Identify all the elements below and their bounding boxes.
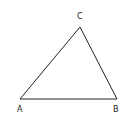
triangle-diagram: A B C [0,0,130,113]
vertex-label-c: C [77,12,83,21]
triangle-abc [20,27,117,99]
vertex-label-a: A [17,105,23,113]
vertex-label-b: B [113,105,119,113]
